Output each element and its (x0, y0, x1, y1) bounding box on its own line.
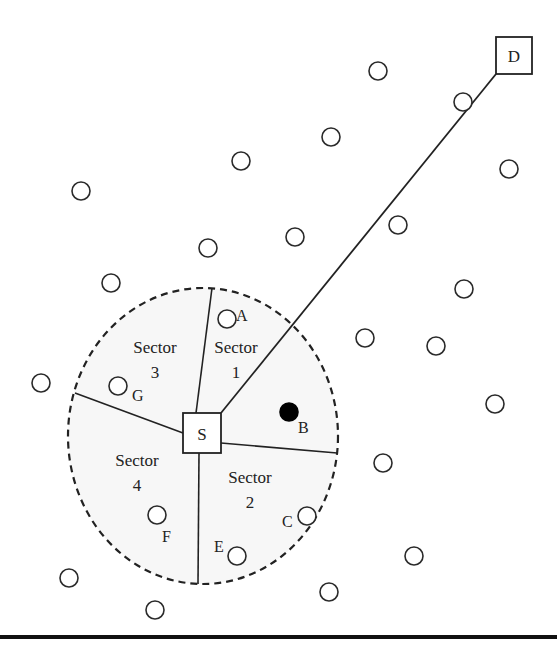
sector-4-number: 4 (133, 476, 142, 495)
node-circle (374, 454, 392, 472)
node-circle (455, 280, 473, 298)
node-circle (60, 569, 78, 587)
sector-3-number: 3 (151, 363, 160, 382)
node-circle (405, 547, 423, 565)
network-sector-diagram: ABCEFGSector1Sector2Sector3Sector4 SD (0, 0, 557, 654)
node-label-f: F (162, 528, 171, 545)
node-label-b: B (298, 419, 309, 436)
source-label: S (197, 425, 206, 444)
node-label-g: G (132, 387, 144, 404)
node-circle (102, 274, 120, 292)
destination-label: D (508, 47, 520, 66)
node-f (148, 506, 166, 524)
node-label-c: C (282, 513, 293, 530)
route-layer (221, 74, 496, 413)
node-circle (369, 62, 387, 80)
node-circle (356, 329, 374, 347)
sector-3-label: Sector (133, 338, 177, 357)
node-circle (486, 395, 504, 413)
node-c (298, 507, 316, 525)
destination-node: D (496, 37, 532, 74)
node-e (228, 547, 246, 565)
source-node: S (183, 413, 221, 453)
node-circle (286, 228, 304, 246)
node-label-e: E (214, 538, 224, 555)
node-circle (427, 337, 445, 355)
node-circle (32, 374, 50, 392)
sector-1-number: 1 (232, 363, 241, 382)
sector-4-label: Sector (115, 451, 159, 470)
node-circle (389, 216, 407, 234)
node-circle (322, 128, 340, 146)
sector-1-label: Sector (214, 338, 258, 357)
route-line-s-to-d (221, 74, 496, 413)
sector-2-label: Sector (228, 468, 272, 487)
node-circle (500, 160, 518, 178)
node-circle (199, 239, 217, 257)
node-g (109, 377, 127, 395)
bottom-rule (0, 635, 557, 639)
node-circle (454, 93, 472, 111)
node-circle (72, 182, 90, 200)
node-circle (232, 152, 250, 170)
sector-2-number: 2 (246, 493, 255, 512)
node-label-a: A (236, 307, 248, 324)
node-b (280, 403, 298, 421)
node-a (218, 310, 236, 328)
node-circle (320, 583, 338, 601)
node-circle (146, 601, 164, 619)
sector-divider (198, 453, 199, 584)
